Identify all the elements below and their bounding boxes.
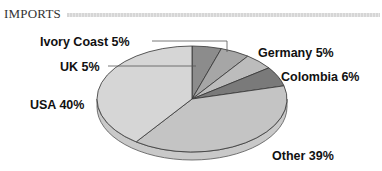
pie-slices xyxy=(97,46,287,152)
label-ivory-coast: Ivory Coast 5% xyxy=(40,35,130,49)
label-colombia: Colombia 6% xyxy=(281,70,360,84)
pie-chart: Ivory Coast 5% UK 5% USA 40% Germany 5% … xyxy=(0,0,382,171)
label-usa: USA 40% xyxy=(30,98,84,112)
label-other: Other 39% xyxy=(272,149,334,163)
label-uk: UK 5% xyxy=(60,60,100,74)
label-germany: Germany 5% xyxy=(258,46,334,60)
